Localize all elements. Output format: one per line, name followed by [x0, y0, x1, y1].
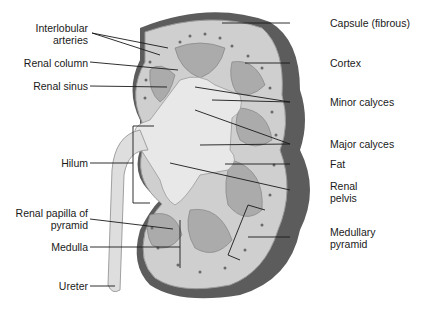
- label-text: arteries: [2, 34, 88, 46]
- label-ureter: Ureter: [2, 280, 88, 292]
- label-text: Interlobular: [2, 22, 88, 34]
- label-renal-sinus: Renal sinus: [2, 80, 88, 92]
- label-renal-pelvis: Renal pelvis: [330, 180, 357, 204]
- label-text: pyramid: [2, 219, 88, 231]
- label-fat: Fat: [330, 158, 345, 170]
- label-major-calyces: Major calyces: [330, 138, 394, 150]
- label-capsule: Capsule (fibrous): [330, 17, 410, 29]
- label-text: Medullary: [330, 226, 376, 238]
- label-medullary-pyramid: Medullary pyramid: [330, 226, 376, 250]
- label-minor-calyces: Minor calyces: [330, 96, 394, 108]
- label-renal-papilla: Renal papilla of pyramid: [2, 207, 88, 231]
- label-interlobular-arteries: Interlobular arteries: [2, 22, 88, 46]
- label-medulla: Medulla: [2, 241, 88, 253]
- label-text: Renal: [330, 180, 357, 192]
- label-text: pelvis: [330, 192, 357, 204]
- label-cortex: Cortex: [330, 57, 361, 69]
- kidney-diagram: Interlobular arteries Renal column Renal…: [0, 0, 422, 311]
- label-text: pyramid: [330, 238, 376, 250]
- label-hilum: Hilum: [2, 157, 88, 169]
- label-renal-column: Renal column: [2, 57, 88, 69]
- label-text: Renal papilla of: [2, 207, 88, 219]
- kidney-illustration: [0, 0, 422, 311]
